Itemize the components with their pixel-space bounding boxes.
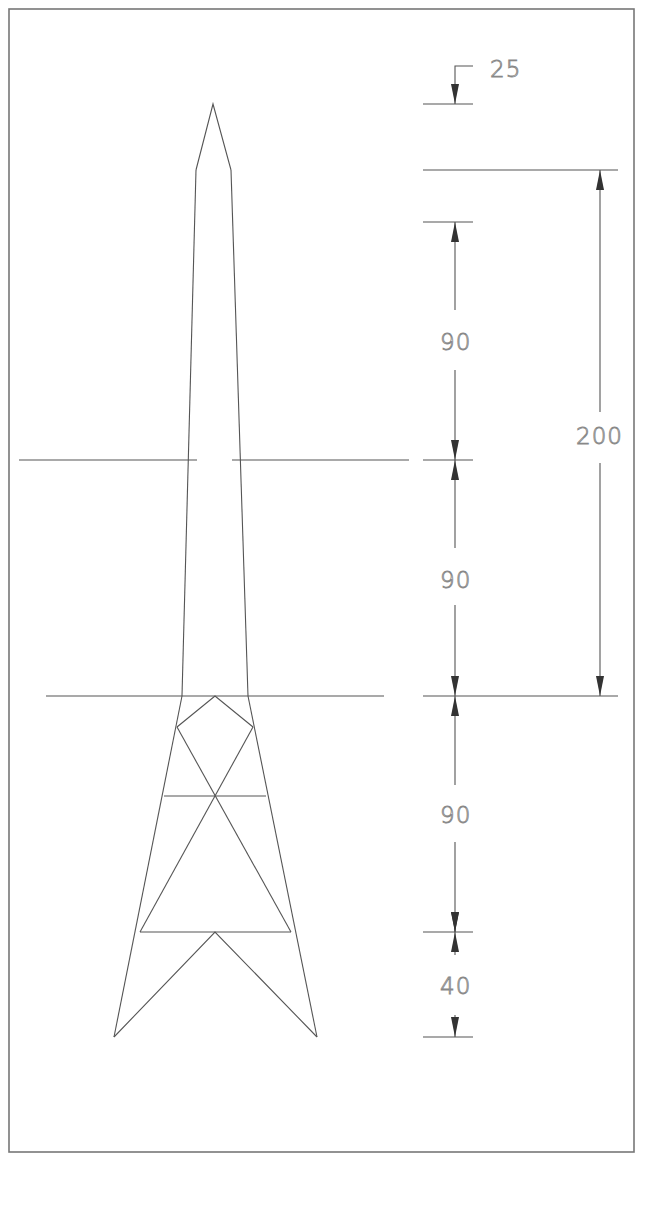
dimension-label-40: 40 [440, 973, 471, 999]
spire-tip [196, 104, 231, 170]
arrow-up-icon [451, 696, 459, 716]
crossarms [19, 460, 409, 696]
arrow-down-icon [451, 84, 459, 104]
dimension-label-90-upper: 90 [440, 329, 471, 355]
tower-drawing: 25 90 90 90 40 200 [0, 0, 655, 1206]
arrow-down-icon [451, 676, 459, 696]
tower [114, 104, 317, 1037]
dimension-label-90-middle: 90 [440, 567, 471, 593]
drawing-frame [9, 9, 634, 1152]
dimension-40: 40 [440, 912, 471, 1037]
arrow-up-icon [451, 932, 459, 952]
dimension-90-lattice: 90 [440, 696, 471, 932]
brace-diagonal-1 [177, 727, 291, 932]
arrow-up-icon [451, 222, 459, 242]
leg-right [248, 696, 317, 1037]
arrow-up-icon [596, 170, 604, 190]
dimension-label-200: 200 [576, 423, 623, 449]
brace-diagonal-2 [140, 727, 253, 932]
lattice-diamond-top [177, 696, 253, 727]
mast-left-edge [182, 170, 196, 696]
dimension-90-upper: 90 [440, 222, 471, 460]
arrow-down-icon [451, 440, 459, 460]
arrow-down-icon [596, 676, 604, 696]
arrow-down-icon [451, 912, 459, 932]
arrow-down-icon [451, 1017, 459, 1037]
dimension-25: 25 [451, 56, 521, 104]
leg-left [114, 696, 182, 1037]
mast-right-edge [231, 170, 248, 696]
dimension-label-25: 25 [490, 56, 521, 82]
dimension-90-middle: 90 [440, 460, 471, 696]
dimension-200: 200 [576, 170, 623, 696]
dimension-label-90-lattice: 90 [440, 802, 471, 828]
arrow-up-icon [451, 460, 459, 480]
base-inverted-v [114, 932, 317, 1037]
